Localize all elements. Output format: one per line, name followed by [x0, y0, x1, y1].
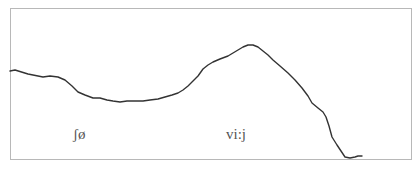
phonetic-label-syllable-2: vi:j — [226, 127, 246, 142]
pitch-contour-line — [0, 0, 420, 177]
phonetic-label-syllable-1: ʃø — [73, 127, 86, 142]
